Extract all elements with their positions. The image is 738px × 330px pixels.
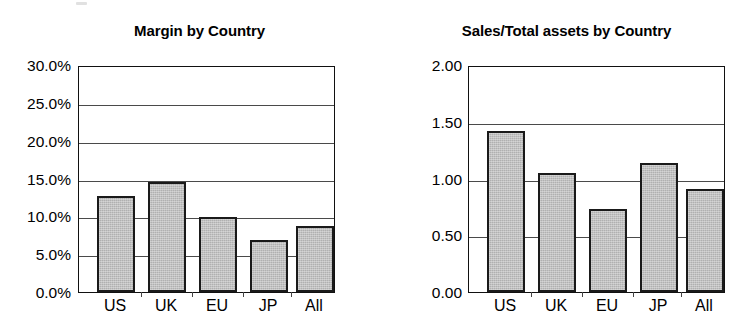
chart-sales-total-assets-by-country: Sales/Total assets by Country 0.00 0.50 … — [369, 0, 738, 330]
y-tick-label: 0.0% — [36, 285, 71, 301]
y-tick-label: 2.00 — [432, 58, 462, 74]
y-axis-labels-right: 0.00 0.50 1.00 1.50 2.00 — [391, 66, 462, 293]
x-tick-label: All — [677, 296, 731, 316]
y-tick-label: 30.0% — [27, 58, 71, 74]
x-axis-labels-left: US UK EU JP All — [78, 296, 335, 322]
y-tick-label: 0.50 — [432, 228, 462, 244]
x-tick-label: EU — [190, 296, 244, 316]
y-axis-labels-left: 0.0% 5.0% 10.0% 15.0% 20.0% 25.0% 30.0% — [0, 66, 71, 293]
bar — [148, 182, 186, 293]
chart-title: Sales/Total assets by Country — [369, 22, 738, 40]
y-tick-label: 10.0% — [27, 209, 71, 225]
bar — [487, 131, 525, 292]
y-tick-label: 15.0% — [27, 172, 71, 188]
bar — [538, 173, 576, 292]
chart-title: Margin by Country — [0, 22, 369, 40]
gridline — [469, 124, 724, 125]
x-tick-label: US — [88, 296, 142, 316]
chart-margin-by-country: Margin by Country 0.0% 5.0% 10.0% 15.0% … — [0, 0, 369, 330]
y-tick-label: 1.00 — [432, 172, 462, 188]
bar — [199, 217, 237, 292]
gridline — [79, 105, 334, 106]
y-tick-label: 20.0% — [27, 134, 71, 150]
bar — [250, 240, 288, 292]
gridline — [79, 143, 334, 144]
x-tick-label: All — [287, 296, 341, 316]
x-tick-label: UK — [139, 296, 193, 316]
figure-page: Margin by Country 0.0% 5.0% 10.0% 15.0% … — [0, 0, 738, 330]
y-tick-label: 25.0% — [27, 96, 71, 112]
y-tick-label: 1.50 — [432, 115, 462, 131]
x-tick-label: EU — [580, 296, 634, 316]
bar — [640, 163, 678, 292]
bar — [686, 189, 724, 292]
y-tick-label: 0.00 — [432, 285, 462, 301]
x-tick-label: US — [478, 296, 532, 316]
plot-area — [78, 66, 335, 293]
gridline — [79, 181, 334, 182]
x-tick-label: UK — [529, 296, 583, 316]
bar — [97, 196, 135, 292]
x-axis-labels-right: US UK EU JP All — [468, 296, 725, 322]
bar — [589, 209, 627, 292]
y-tick-label: 5.0% — [36, 247, 71, 263]
plot-area — [468, 66, 725, 293]
bar — [296, 226, 334, 292]
